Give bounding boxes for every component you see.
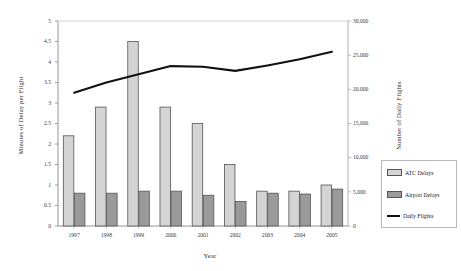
x-tick-2005: 2005 (317, 232, 347, 238)
bar-atc-delays-1998 (96, 107, 107, 226)
y-right-tick-3: 15,000 (353, 120, 383, 126)
bar-atc-delays-2005 (321, 185, 332, 226)
chart-legend: ATC Delays Airport Delays Daily Flights (381, 160, 457, 228)
bar-atc-delays-2001 (192, 124, 203, 227)
legend-label-atc: ATC Delays (405, 170, 434, 176)
legend-swatch-atc-icon (387, 169, 402, 176)
legend-label-airport: Airport Delays (405, 192, 440, 198)
bar-atc-delays-1999 (128, 42, 139, 227)
y-left-tick-5: 2.5 (25, 120, 51, 126)
bar-atc-delays-2004 (289, 191, 300, 226)
bar-airport-delays-1997 (74, 193, 85, 226)
bar-atc-delays-1997 (63, 136, 74, 226)
x-tick-2003: 2003 (252, 232, 282, 238)
x-tick-2002: 2002 (220, 232, 250, 238)
bar-atc-delays-2002 (224, 165, 235, 227)
x-tick-2000: 2000 (156, 232, 186, 238)
y-right-tick-1: 5,000 (353, 189, 383, 195)
y-right-tick-5: 25,000 (353, 52, 383, 58)
y-left-tick-7: 3.5 (25, 79, 51, 85)
y-left-tick-10: 5 (25, 18, 51, 24)
legend-swatch-line-icon (387, 215, 400, 217)
y-right-tick-6: 30,000 (353, 18, 383, 24)
bar-airport-delays-2004 (300, 194, 311, 226)
y-left-tick-4: 2 (25, 141, 51, 147)
legend-label-flights: Daily Flights (403, 213, 433, 219)
bar-airport-delays-2001 (203, 195, 214, 226)
x-tick-1998: 1998 (91, 232, 121, 238)
y-left-tick-8: 4 (25, 59, 51, 65)
y-right-tick-0: 0 (353, 223, 383, 229)
legend-item-daily-flights: Daily Flights (387, 213, 433, 219)
legend-swatch-airport-icon (387, 191, 402, 198)
bar-airport-delays-2005 (332, 189, 343, 226)
x-tick-2001: 2001 (188, 232, 218, 238)
bar-airport-delays-2000 (171, 191, 182, 226)
x-tick-1999: 1999 (124, 232, 154, 238)
y-left-tick-9: 4.5 (25, 38, 51, 44)
y-right-tick-4: 20,000 (353, 86, 383, 92)
y-left-tick-2: 1 (25, 182, 51, 188)
bar-airport-delays-1999 (139, 191, 150, 226)
bar-airport-delays-1998 (107, 193, 118, 226)
bar-airport-delays-2003 (268, 193, 279, 226)
legend-item-airport-delays: Airport Delays (387, 191, 440, 198)
x-tick-2004: 2004 (285, 232, 315, 238)
y-left-tick-1: 0.5 (25, 202, 51, 208)
y-left-tick-6: 3 (25, 100, 51, 106)
bar-atc-delays-2000 (160, 107, 171, 226)
delay-flights-chart: Minutes of Delay per Flight Number of Da… (0, 0, 461, 271)
line-daily-flights (74, 52, 332, 93)
plot-area (0, 0, 461, 271)
bar-airport-delays-2002 (236, 201, 247, 226)
y-left-tick-3: 1.5 (25, 161, 51, 167)
y-right-tick-2: 10,000 (353, 154, 383, 160)
bar-atc-delays-2003 (257, 191, 268, 226)
legend-item-atc-delays: ATC Delays (387, 169, 434, 176)
y-left-tick-0: 0 (25, 223, 51, 229)
x-tick-1997: 1997 (59, 232, 89, 238)
